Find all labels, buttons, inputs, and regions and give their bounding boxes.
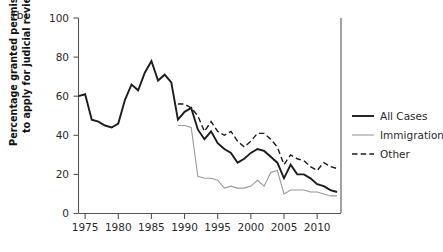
y-tick-group: 020406080100 bbox=[49, 12, 79, 220]
figure-panel-b: (b) Percentage granted permission to app… bbox=[0, 0, 443, 252]
x-tick-label: 2000 bbox=[237, 221, 264, 233]
y-tick-label: 100 bbox=[49, 12, 69, 24]
x-tick-label: 1995 bbox=[204, 221, 231, 233]
series-line-other bbox=[178, 104, 337, 170]
line-chart: 020406080100 197519801985199019952000200… bbox=[0, 0, 443, 252]
legend-label-all-cases: All Cases bbox=[380, 110, 428, 122]
axis-group bbox=[79, 18, 342, 214]
x-tick-label: 1980 bbox=[105, 221, 132, 233]
y-tick-label: 20 bbox=[56, 168, 69, 180]
x-tick-label: 1990 bbox=[171, 221, 198, 233]
x-tick-label: 2010 bbox=[304, 221, 331, 233]
legend-label-immigration: Immigration bbox=[380, 129, 443, 141]
x-tick-label: 2005 bbox=[271, 221, 298, 233]
y-tick-label: 40 bbox=[56, 129, 69, 141]
x-tick-group: 19751980198519901995200020052010 bbox=[72, 214, 331, 234]
chart-legend: All CasesImmigrationOther bbox=[341, 18, 443, 213]
legend-label-other: Other bbox=[380, 148, 410, 160]
series-group bbox=[79, 61, 338, 196]
y-tick-label: 80 bbox=[56, 51, 69, 63]
y-tick-label: 60 bbox=[56, 90, 69, 102]
y-tick-label: 0 bbox=[62, 207, 69, 219]
x-tick-label: 1975 bbox=[72, 221, 99, 233]
x-tick-label: 1985 bbox=[138, 221, 165, 233]
